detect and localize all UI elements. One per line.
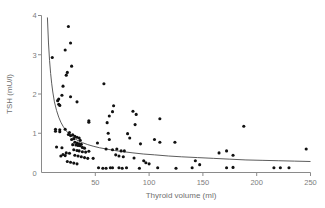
data-point: [194, 159, 197, 162]
data-point: [84, 151, 87, 154]
data-point: [231, 154, 234, 157]
data-point: [122, 155, 125, 158]
scatter-chart: 050100150200250 1234 Thyroid volume (ml)…: [0, 0, 325, 208]
data-point: [83, 156, 86, 159]
data-point: [121, 167, 124, 170]
data-point: [75, 100, 78, 103]
data-point: [111, 148, 114, 151]
axes-group: [42, 16, 311, 173]
data-point: [198, 163, 201, 166]
data-point: [231, 166, 234, 169]
data-point: [117, 154, 120, 157]
data-points-group: [51, 25, 308, 170]
x-tick-label: 50: [91, 178, 99, 187]
data-point: [106, 121, 109, 124]
x-tick-label: 100: [143, 178, 156, 187]
data-point: [138, 167, 141, 170]
data-point: [65, 74, 68, 77]
data-point: [126, 132, 129, 135]
data-point: [87, 121, 90, 124]
data-point: [78, 149, 81, 152]
data-point: [61, 85, 64, 88]
data-point: [173, 141, 176, 144]
data-point: [139, 142, 142, 145]
data-point: [96, 142, 99, 145]
data-point: [123, 149, 126, 152]
y-tick-label: 4: [32, 11, 36, 20]
data-point: [125, 166, 128, 169]
data-point: [69, 134, 72, 137]
data-point: [92, 157, 95, 160]
data-point: [217, 151, 220, 154]
data-point: [108, 138, 111, 141]
data-point: [69, 41, 72, 44]
data-point: [132, 156, 135, 159]
data-point: [64, 48, 67, 51]
data-point: [148, 162, 151, 165]
y-tick-label: 1: [32, 129, 36, 138]
data-point: [305, 147, 308, 150]
chart-svg: 050100150200250 1234 Thyroid volume (ml)…: [0, 0, 325, 208]
data-point: [135, 113, 138, 116]
data-point: [174, 167, 177, 170]
data-point: [158, 117, 161, 120]
y-tick-label: 2: [32, 90, 36, 99]
data-point: [120, 149, 123, 152]
data-point: [70, 138, 73, 141]
data-point: [128, 136, 131, 139]
data-point: [108, 114, 111, 117]
data-point: [69, 95, 72, 98]
data-point: [77, 154, 80, 157]
data-point: [111, 110, 114, 113]
x-axis-ticks: 050100150200250: [32, 169, 316, 187]
data-point: [64, 128, 67, 131]
data-point: [80, 155, 83, 158]
data-point: [81, 150, 84, 153]
data-point: [87, 150, 90, 153]
data-point: [58, 130, 61, 133]
data-point: [225, 149, 228, 152]
data-point: [114, 153, 117, 156]
data-point: [272, 166, 275, 169]
fitted-curve: [47, 17, 310, 161]
x-tick-label: 250: [304, 178, 317, 187]
data-point: [112, 104, 115, 107]
data-point: [64, 154, 67, 157]
data-point: [71, 143, 74, 146]
data-point: [59, 154, 62, 157]
data-point: [60, 146, 63, 149]
data-point: [115, 147, 118, 150]
data-point: [67, 25, 70, 28]
data-point: [79, 139, 82, 142]
data-point: [58, 104, 61, 107]
data-point: [68, 152, 71, 155]
x-tick-label: 150: [197, 178, 210, 187]
data-point: [65, 151, 68, 154]
x-tick-label: 200: [250, 178, 263, 187]
data-point: [144, 161, 147, 164]
data-point: [279, 166, 282, 169]
fitted-curve-group: [47, 17, 310, 161]
data-point: [111, 166, 114, 169]
data-point: [75, 162, 78, 165]
data-point: [70, 65, 73, 68]
data-point: [51, 56, 54, 59]
data-point: [72, 162, 75, 165]
data-point: [101, 167, 104, 170]
data-point: [131, 110, 134, 113]
data-point: [117, 166, 120, 169]
data-point: [191, 166, 194, 169]
data-point: [83, 147, 86, 150]
data-point: [66, 71, 69, 74]
data-point: [66, 160, 69, 163]
data-point: [134, 123, 137, 126]
data-point: [242, 125, 245, 128]
y-tick-label: 3: [32, 51, 36, 60]
data-point: [105, 147, 108, 150]
y-axis-title: TSH (mU/l): [5, 74, 14, 114]
x-tick-label: 0: [32, 169, 36, 178]
data-point: [97, 166, 100, 169]
data-point: [86, 157, 89, 160]
data-point: [56, 99, 59, 102]
data-point: [55, 145, 58, 148]
